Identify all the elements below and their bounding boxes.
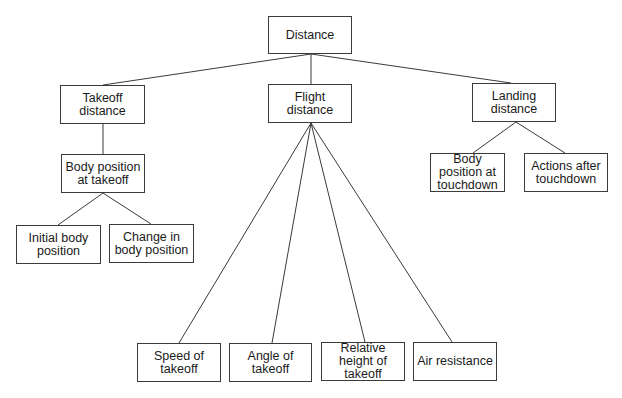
node-body-takeoff: Body position at takeoff	[61, 154, 145, 193]
node-air: Air resistance	[413, 342, 497, 381]
node-actions-after: Actions after touchdown	[524, 153, 608, 192]
edge-distance-to-takeoff	[103, 54, 311, 85]
node-body-touchdown: Body position at touchdown	[430, 153, 505, 192]
node-label: Speed of takeoff	[140, 350, 218, 376]
node-label: Angle of takeoff	[232, 350, 309, 376]
node-label: Takeoff distance	[63, 92, 142, 118]
node-rel-height: Relative height of takeoff	[321, 342, 405, 381]
node-label: Relative height of takeoff	[324, 342, 402, 381]
node-change-body: Change in body position	[109, 224, 194, 263]
node-label: Air resistance	[417, 355, 493, 368]
tree-connectors	[0, 0, 622, 398]
node-landing: Landing distance	[472, 83, 556, 122]
node-flight: Flight distance	[268, 84, 352, 123]
node-speed: Speed of takeoff	[137, 343, 221, 382]
node-label: Actions after touchdown	[527, 160, 605, 186]
node-initial-body: Initial body position	[16, 225, 101, 264]
edge-body_takeoff-to-initial_body	[58, 193, 103, 225]
node-label: Distance	[286, 29, 335, 42]
edge-distance-to-landing	[311, 54, 511, 83]
node-label: Initial body position	[19, 232, 98, 258]
node-label: Body position at touchdown	[433, 153, 502, 192]
node-takeoff: Takeoff distance	[60, 85, 145, 124]
node-label: Flight distance	[271, 91, 349, 117]
edge-flight-to-rel_height	[311, 123, 365, 342]
node-label: Landing distance	[475, 90, 553, 116]
edge-body_takeoff-to-change_body	[103, 193, 151, 224]
edge-landing-to-body_touchdown	[473, 122, 516, 153]
node-label: Body position at takeoff	[64, 161, 142, 187]
edge-landing-to-actions_after	[516, 122, 565, 153]
node-distance: Distance	[268, 16, 352, 54]
node-angle: Angle of takeoff	[229, 343, 312, 382]
node-label: Change in body position	[112, 231, 191, 257]
